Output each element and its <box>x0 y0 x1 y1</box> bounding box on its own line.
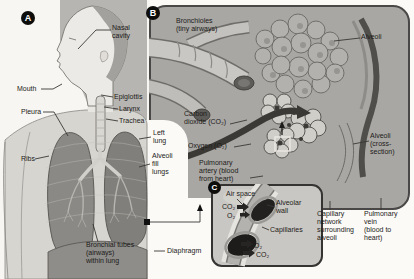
label-bronchial-tubes: Bronchial tubes (airways) within lung <box>86 241 134 265</box>
panel-a-body-illustration <box>0 0 150 279</box>
label-epiglottis: Epiglottis <box>114 93 142 101</box>
label-bronchioles: Bronchioles (tiny airways) <box>176 17 217 33</box>
label-diaphragm: Diaphragm <box>167 247 201 255</box>
label-nasal-cavity: Nasal cavity <box>112 24 130 40</box>
label-co2-out: CO₂ <box>256 251 269 259</box>
label-mouth: Mouth <box>17 85 36 93</box>
label-area-cutout-2 <box>186 198 214 279</box>
label-co2-in: CO₂ <box>222 203 235 211</box>
label-o2-in: O₂ <box>227 212 235 220</box>
label-oxygen: Oxygen (O₂) <box>188 142 227 150</box>
label-capillaries: Capillaries <box>270 226 303 234</box>
label-alveolar-wall: Alveolar wall <box>276 199 301 215</box>
label-alveoli-fill-lungs: Alveoli fill lungs <box>152 152 173 176</box>
panel-b-badge: B <box>146 6 160 20</box>
label-larynx: Larynx <box>119 105 140 113</box>
label-o2-out: O₂ <box>254 242 262 250</box>
label-pulmonary-vein: Pulmonary vein (blood to heart) <box>364 210 397 242</box>
label-pleura: Pleura <box>21 108 41 116</box>
label-left-lung: Left lung <box>153 129 166 145</box>
label-alveoli: Alveoli <box>361 33 382 41</box>
label-capillary-network: Capillary network surrounding alveoli <box>317 210 354 242</box>
label-air-space: Air space <box>226 190 255 198</box>
label-trachea: Trachea <box>119 117 144 125</box>
label-carbon-dioxide: Carbon dioxide (CO₂) <box>184 110 226 126</box>
label-ribs: Ribs <box>21 155 35 163</box>
panel-a-badge: A <box>21 11 35 25</box>
respiratory-system-diagram: A B C Nasal cavity Mouth Epiglottis Lary… <box>0 0 414 279</box>
label-pulmonary-artery: Pulmonary artery (blood from heart) <box>199 159 238 183</box>
label-alveoli-cross-section: Alveoli (cross- section) <box>370 132 395 156</box>
panel-c-badge: C <box>208 181 221 194</box>
